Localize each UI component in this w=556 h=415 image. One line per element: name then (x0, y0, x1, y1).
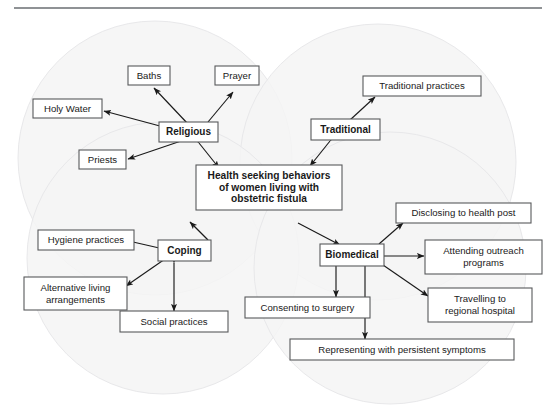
node-alternative-living[interactable]: Alternative living arrangements (24, 277, 127, 310)
node-traditional[interactable]: Traditional (311, 119, 380, 140)
node-center-line1: Health seeking behaviors (208, 170, 331, 181)
node-center-line2: of women living with (219, 182, 319, 193)
node-consenting-surgery[interactable]: Consenting to surgery (245, 297, 370, 318)
node-baths[interactable]: Baths (128, 66, 170, 85)
node-disclosing-health-post[interactable]: Disclosing to health post (396, 203, 531, 223)
node-travelling-hospital-line2: regional hospital (445, 305, 515, 316)
concept-map-diagram: Health seeking behaviors of women living… (0, 0, 556, 415)
node-center-line3: obstetric fistula (231, 193, 307, 204)
node-alternative-living-line1: Alternative living (41, 282, 111, 293)
node-prayer-label: Prayer (223, 70, 252, 81)
node-representing-symptoms[interactable]: Representing with persistent symptoms (290, 339, 514, 360)
node-priests-label: Priests (88, 154, 118, 165)
node-religious[interactable]: Religious (159, 122, 218, 142)
node-coping-label: Coping (167, 245, 201, 256)
node-social-practices-label: Social practices (140, 316, 207, 327)
node-religious-label: Religious (166, 126, 211, 137)
node-disclosing-health-post-label: Disclosing to health post (412, 207, 516, 218)
node-social-practices[interactable]: Social practices (120, 311, 228, 332)
node-priests[interactable]: Priests (79, 150, 126, 169)
node-biomedical[interactable]: Biomedical (320, 244, 384, 266)
concept-map-figure: Health seeking behaviors of women living… (0, 0, 556, 415)
node-hygiene-practices-label: Hygiene practices (48, 234, 124, 245)
node-baths-label: Baths (137, 70, 162, 81)
node-biomedical-label: Biomedical (325, 249, 379, 260)
node-travelling-hospital[interactable]: Travelling to regional hospital (428, 288, 532, 322)
node-attending-outreach-line2: programs (463, 257, 504, 268)
node-coping[interactable]: Coping (158, 240, 211, 261)
node-holy-water-label: Holy Water (44, 103, 92, 114)
node-hygiene-practices[interactable]: Hygiene practices (38, 230, 134, 250)
node-attending-outreach[interactable]: Attending outreach programs (425, 240, 542, 274)
node-prayer[interactable]: Prayer (215, 66, 259, 85)
node-center[interactable]: Health seeking behaviors of women living… (196, 165, 342, 210)
node-representing-symptoms-label: Representing with persistent symptoms (318, 344, 486, 355)
node-traditional-practices[interactable]: Traditional practices (363, 76, 481, 96)
node-holy-water[interactable]: Holy Water (33, 99, 102, 118)
node-alternative-living-line2: arrangements (46, 294, 105, 305)
node-travelling-hospital-line1: Travelling to (454, 293, 506, 304)
node-attending-outreach-line1: Attending outreach (443, 245, 524, 256)
node-traditional-practices-label: Traditional practices (379, 80, 465, 91)
node-consenting-surgery-label: Consenting to surgery (261, 302, 355, 313)
node-traditional-label: Traditional (320, 124, 371, 135)
